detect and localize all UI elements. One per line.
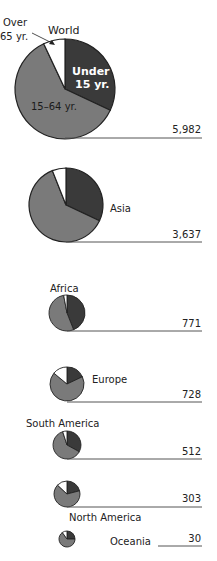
pie-africa [49, 295, 85, 331]
pie-north-america [54, 481, 80, 507]
total-africa: 771 [182, 318, 201, 329]
legend-mid: 15–64 yr. [31, 101, 77, 112]
label-asia: Asia [110, 203, 131, 214]
total-south-america: 512 [182, 446, 201, 457]
label-world: World [48, 24, 80, 37]
pie-oceania [59, 531, 75, 547]
slice-under-15 [67, 531, 75, 539]
legend-over65-line1: Over [3, 17, 28, 28]
label-africa: Africa [50, 283, 79, 294]
pie-chart-stack: World 5,982 Over 65 yr. Under 15 yr. 15–… [0, 0, 217, 561]
label-europe: Europe [92, 374, 127, 385]
total-europe: 728 [182, 389, 201, 400]
legend-under15-line2: 15 yr. [75, 78, 109, 91]
legend-over65-line2: 65 yr. [0, 31, 28, 42]
total-oceania: 30 [188, 533, 201, 544]
total-world: 5,982 [172, 124, 201, 135]
total-north-america: 303 [182, 493, 201, 504]
label-south-america: South America [26, 418, 100, 429]
total-asia: 3,637 [172, 229, 201, 240]
pie-asia [29, 168, 103, 242]
label-oceania: Oceania [110, 536, 151, 547]
pie-europe [50, 367, 84, 401]
pie-south-america [53, 431, 81, 459]
legend-under15-line1: Under [72, 65, 110, 78]
label-north-america: North America [69, 512, 141, 523]
